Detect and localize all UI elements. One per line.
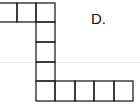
net-square bbox=[55, 81, 75, 101]
net-square bbox=[75, 81, 94, 101]
square-net-figure bbox=[0, 0, 140, 109]
net-square bbox=[114, 81, 133, 101]
net-square bbox=[36, 42, 55, 62]
net-square bbox=[36, 3, 55, 22]
net-square bbox=[36, 81, 55, 101]
net-square bbox=[94, 81, 114, 101]
net-square bbox=[36, 22, 55, 42]
net-square bbox=[17, 3, 36, 22]
net-square bbox=[36, 62, 55, 81]
net-square bbox=[0, 3, 17, 22]
option-label: D. bbox=[91, 11, 106, 27]
